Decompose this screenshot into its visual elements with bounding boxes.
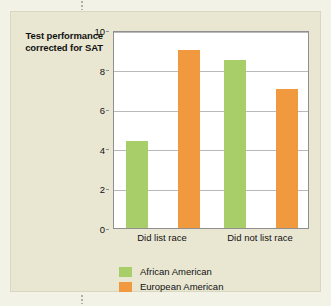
x-axis-labels: Did list raceDid not list race — [113, 232, 309, 246]
bar — [276, 89, 298, 228]
y-tick-label: 6 — [100, 105, 105, 116]
chart-legend: African AmericanEuropean American — [119, 265, 223, 295]
y-tick-label: 0 — [100, 224, 105, 235]
bar — [224, 60, 246, 228]
bars-layer — [114, 32, 308, 228]
x-axis-label: Did list race — [137, 232, 187, 243]
legend-item: African American — [119, 265, 223, 278]
figure-panel: Test performance corrected for SAT 02468… — [10, 11, 321, 292]
page-background: Test performance corrected for SAT 02468… — [0, 0, 331, 306]
y-tick-mark — [106, 229, 109, 230]
legend-label: European American — [140, 281, 223, 292]
y-tick-mark — [106, 110, 109, 111]
registration-mark-top — [81, 1, 83, 10]
plot-area — [113, 31, 309, 229]
y-axis-ticks: 0246810 — [83, 31, 109, 229]
y-tick-label: 4 — [100, 144, 105, 155]
legend-label: African American — [140, 266, 212, 277]
legend-swatch — [119, 267, 132, 277]
y-tick-mark — [106, 70, 109, 71]
y-tick-mark — [106, 31, 109, 32]
y-tick-label: 2 — [100, 184, 105, 195]
legend-item: European American — [119, 280, 223, 293]
x-axis-label: Did not list race — [227, 232, 292, 243]
y-tick-mark — [106, 149, 109, 150]
legend-swatch — [119, 282, 132, 292]
y-tick-mark — [106, 189, 109, 190]
bar — [126, 141, 148, 228]
y-tick-label: 10 — [94, 26, 105, 37]
y-tick-label: 8 — [100, 65, 105, 76]
bar — [178, 50, 200, 228]
registration-mark-bottom — [81, 295, 83, 304]
